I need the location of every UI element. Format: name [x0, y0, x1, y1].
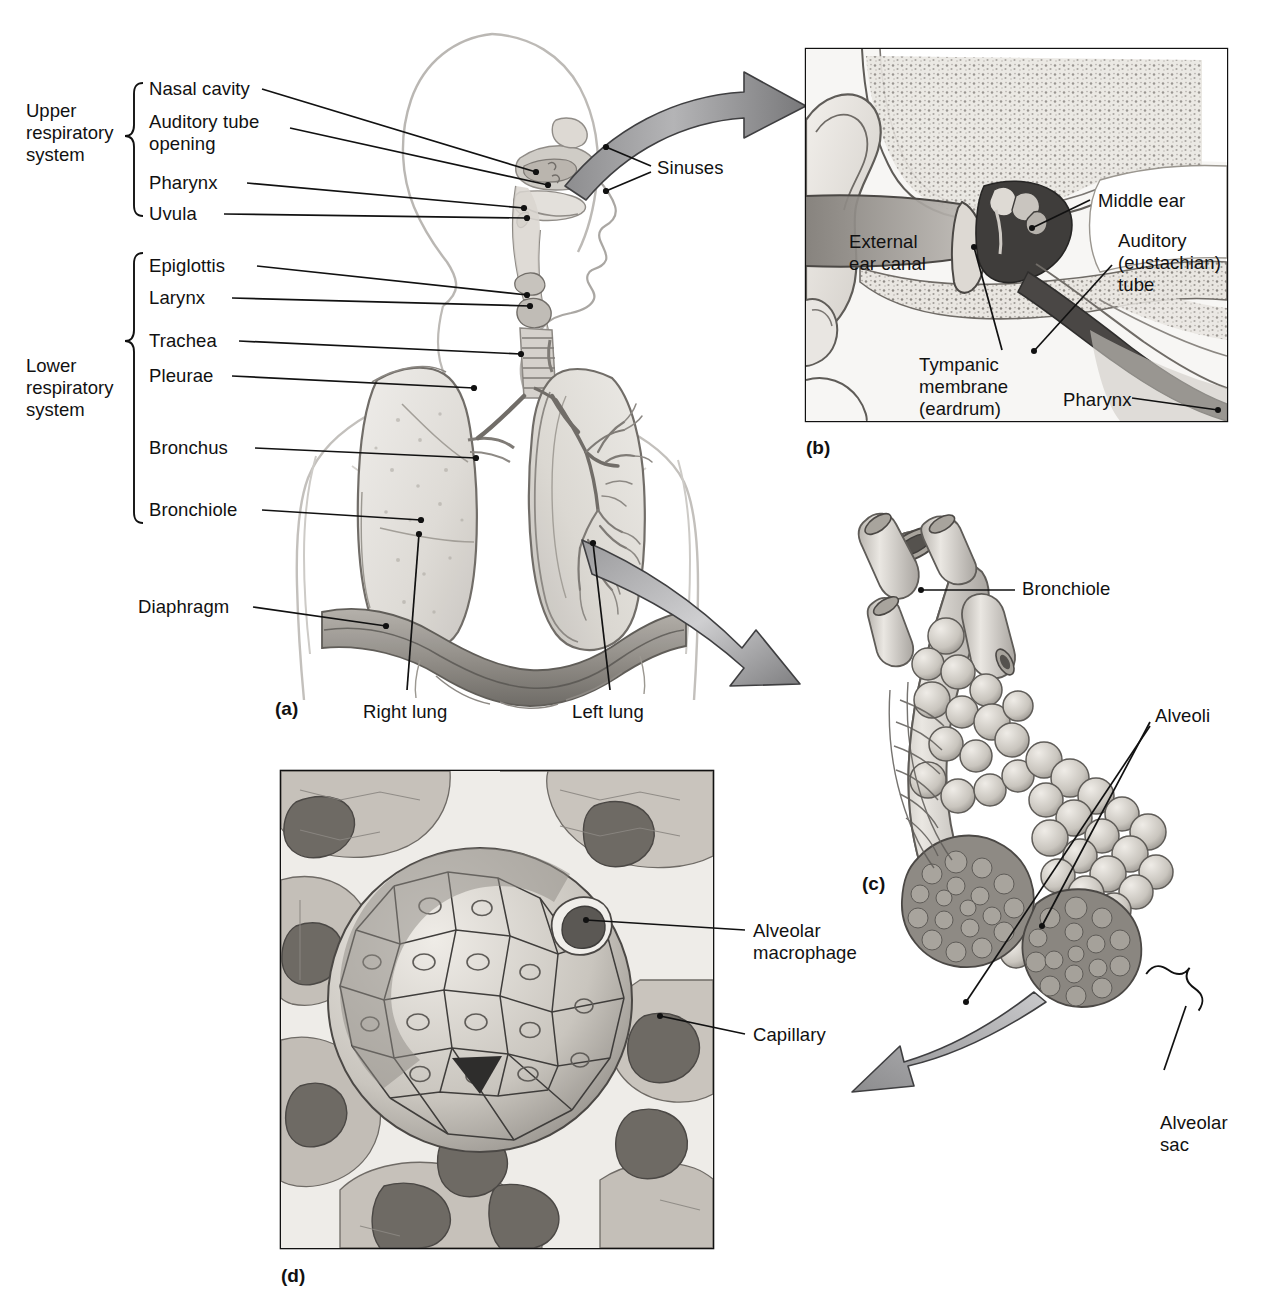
label-bronchiole-panel-c: Bronchiole	[1022, 578, 1110, 600]
group-label-lower-line3: system	[26, 399, 136, 421]
group-label-lower-line1: Lower	[26, 355, 136, 377]
group-label-upper-line1: Upper	[26, 100, 136, 122]
label-pharynx: Pharynx	[149, 172, 218, 194]
label-larynx: Larynx	[149, 287, 205, 309]
label-trachea: Trachea	[149, 330, 217, 352]
label-bronchiole: Bronchiole	[149, 499, 237, 521]
label-nasal-cavity: Nasal cavity	[149, 78, 250, 100]
group-label-lower-respiratory: Lower respiratory system	[26, 355, 136, 421]
label-bronchus: Bronchus	[149, 437, 228, 459]
label-alveoli: Alveoli	[1155, 705, 1210, 727]
panel-letter-b: (b)	[806, 437, 830, 459]
label-external-ear-canal-line1: External	[849, 231, 918, 253]
label-middle-ear: Middle ear	[1098, 190, 1185, 212]
label-sinuses: Sinuses	[657, 157, 724, 179]
group-label-upper-line2: respiratory	[26, 122, 136, 144]
illustration-layer	[0, 0, 1274, 1316]
panel-d-illustration	[281, 771, 713, 1248]
label-right-lung: Right lung	[363, 701, 447, 723]
label-auditory-tube-line1: Auditory	[1118, 230, 1187, 252]
label-alveolar-macrophage-line1: Alveolar	[753, 920, 821, 942]
label-epiglottis: Epiglottis	[149, 255, 225, 277]
label-tympanic-membrane-line3: (eardrum)	[919, 398, 1001, 420]
panel-letter-c: (c)	[862, 873, 885, 895]
label-capillary: Capillary	[753, 1024, 826, 1046]
label-uvula: Uvula	[149, 203, 197, 225]
label-tympanic-membrane-line2: membrane	[919, 376, 1008, 398]
label-alveolar-macrophage-line2: macrophage	[753, 942, 857, 964]
label-left-lung: Left lung	[572, 701, 644, 723]
group-label-upper-line3: system	[26, 144, 136, 166]
label-auditory-tube-line3: tube	[1118, 274, 1154, 296]
label-pharynx-panel-b: Pharynx	[1063, 389, 1132, 411]
group-label-lower-line2: respiratory	[26, 377, 136, 399]
label-alveolar-sac-line1: Alveolar	[1160, 1112, 1228, 1134]
label-diaphragm: Diaphragm	[138, 596, 229, 618]
label-tympanic-membrane-line1: Tympanic	[919, 354, 999, 376]
panel-letter-a: (a)	[275, 698, 298, 720]
label-external-ear-canal-line2: ear canal	[849, 253, 926, 275]
label-auditory-tube-opening-2: opening	[149, 133, 216, 155]
arrow-alveoli-to-detail	[852, 992, 1046, 1092]
panel-letter-d: (d)	[281, 1265, 305, 1287]
label-auditory-tube-opening: Auditory tube	[149, 111, 259, 133]
label-alveolar-sac-line2: sac	[1160, 1134, 1189, 1156]
label-pleurae: Pleurae	[149, 365, 213, 387]
arrow-nasal-to-ear	[565, 72, 806, 200]
label-auditory-tube-line2: (eustachian)	[1118, 252, 1221, 274]
respiratory-system-figure: Upper respiratory system Lower respirato…	[0, 0, 1274, 1316]
group-label-upper-respiratory: Upper respiratory system	[26, 100, 136, 166]
